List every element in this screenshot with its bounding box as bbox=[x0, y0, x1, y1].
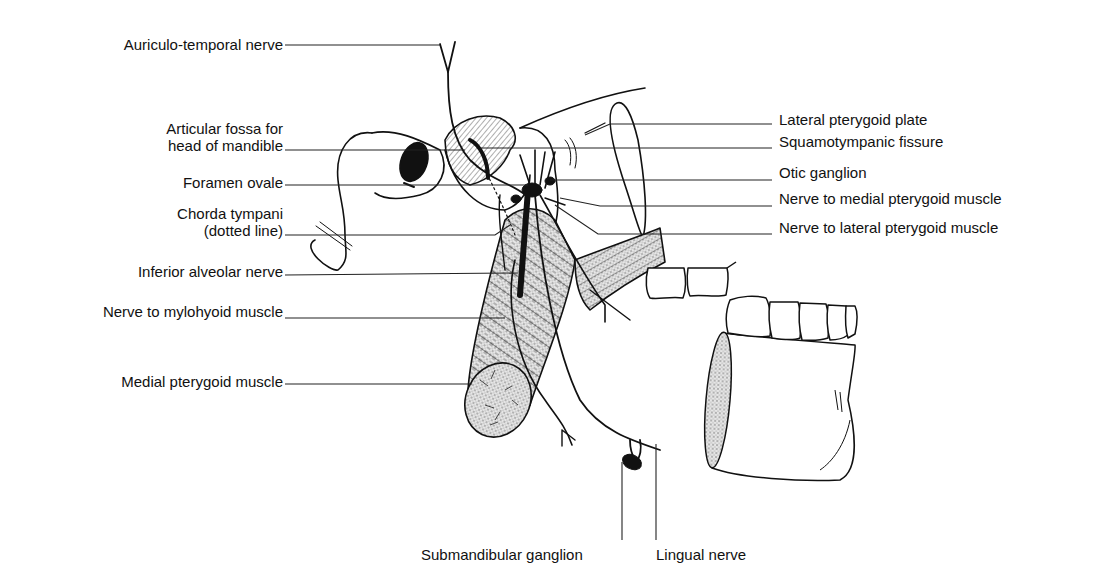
label-chorda-tympani: Chorda tympani (dotted line) bbox=[177, 205, 283, 239]
label-text: Submandibular ganglion bbox=[421, 546, 583, 563]
upper-tooth-2 bbox=[687, 268, 728, 296]
label-medial-pterygoid-muscle: Medial pterygoid muscle bbox=[121, 373, 283, 390]
label-text: Otic ganglion bbox=[779, 164, 867, 181]
label-articular-fossa: Articular fossa for head of mandible bbox=[166, 120, 283, 154]
label-nerve-to-medial-pterygoid: Nerve to medial pterygoid muscle bbox=[779, 190, 1002, 207]
label-text: Medial pterygoid muscle bbox=[121, 373, 283, 390]
foramen-dark bbox=[395, 139, 433, 185]
label-squamotympanic-fissure: Squamotympanic fissure bbox=[779, 133, 943, 150]
leader-chorda-tympani bbox=[285, 225, 510, 235]
label-text: Inferior alveolar nerve bbox=[138, 263, 283, 280]
label-text: Foramen ovale bbox=[183, 174, 283, 191]
lower-tooth-2 bbox=[769, 302, 801, 340]
lower-tooth-1 bbox=[726, 296, 770, 337]
leader-lateral-pterygoid-plate bbox=[585, 124, 772, 135]
label-text: Lingual nerve bbox=[656, 546, 746, 563]
label-auriculo-temporal-nerve: Auriculo-temporal nerve bbox=[124, 36, 283, 53]
label-text: Nerve to medial pterygoid muscle bbox=[779, 190, 1002, 207]
tympanic-process-outline bbox=[311, 133, 372, 270]
label-lateral-pterygoid-plate: Lateral pterygoid plate bbox=[779, 111, 927, 128]
leader-nerve-to-lateral-pterygoid bbox=[555, 205, 772, 234]
anatomical-drawing bbox=[0, 0, 1098, 584]
lower-tooth-5 bbox=[846, 306, 858, 338]
label-submandibular-ganglion: Submandibular ganglion bbox=[421, 546, 583, 563]
label-foramen-ovale: Foramen ovale bbox=[183, 174, 283, 191]
label-text-line1: Chorda tympani bbox=[177, 205, 283, 222]
label-nerve-to-mylohyoid: Nerve to mylohyoid muscle bbox=[103, 303, 283, 320]
label-inferior-alveolar-nerve: Inferior alveolar nerve bbox=[138, 263, 283, 280]
label-text: Squamotympanic fissure bbox=[779, 133, 943, 150]
label-text-line2: (dotted line) bbox=[177, 222, 283, 239]
label-otic-ganglion: Otic ganglion bbox=[779, 164, 867, 181]
label-text: Lateral pterygoid plate bbox=[779, 111, 927, 128]
upper-tooth-1 bbox=[646, 268, 685, 299]
lower-tooth-3 bbox=[799, 303, 829, 340]
label-lingual-nerve: Lingual nerve bbox=[656, 546, 746, 563]
label-text-line1: Articular fossa for bbox=[166, 120, 283, 137]
lateral-pterygoid-plate-shape bbox=[610, 103, 645, 237]
label-text-line2: head of mandible bbox=[166, 137, 283, 154]
leader-nerve-to-medial-pterygoid bbox=[560, 198, 772, 206]
label-text: Nerve to lateral pterygoid muscle bbox=[779, 219, 998, 236]
label-text: Auriculo-temporal nerve bbox=[124, 36, 283, 53]
leader-inferior-alveolar bbox=[285, 273, 518, 275]
label-nerve-to-lateral-pterygoid: Nerve to lateral pterygoid muscle bbox=[779, 219, 998, 236]
label-text: Nerve to mylohyoid muscle bbox=[103, 303, 283, 320]
